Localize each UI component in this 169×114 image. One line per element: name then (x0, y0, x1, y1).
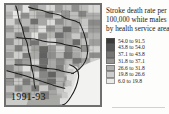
legend-title: Stroke death rate per 100,000 white male… (106, 7, 168, 35)
map-panel[interactable]: 1991-93 (4, 3, 102, 107)
legend-item-label: 31.8 to 37.1 (118, 58, 145, 64)
legend-entry-list: 54.0 to 91.5 43.8 to 54.0 37.1 to 43.8 3… (106, 38, 168, 85)
map-year-label: 1991-93 (11, 91, 46, 102)
legend-item[interactable]: 43.8 to 54.0 (106, 44, 168, 51)
legend-item-label: 26.6 to 31.8 (118, 65, 145, 71)
legend-item[interactable]: 19.8 to 26.6 (106, 71, 168, 78)
legend-item[interactable]: 6.0 to 19.8 (106, 78, 168, 85)
legend-swatch-icon (106, 65, 115, 71)
legend-title-line-3: by health service area (106, 25, 168, 34)
legend-item[interactable]: 54.0 to 91.5 (106, 38, 168, 45)
legend-swatch-icon (106, 51, 115, 57)
bottom-divider (112, 107, 165, 108)
legend-title-line-1: Stroke death rate per (106, 7, 168, 16)
legend-item-label: 54.0 to 91.5 (118, 38, 145, 44)
map-choropleth-cells (6, 5, 100, 105)
legend-swatch-icon (106, 38, 115, 44)
legend-item[interactable]: 31.8 to 37.1 (106, 58, 168, 65)
legend-title-line-2: 100,000 white males (106, 16, 168, 25)
legend-block: Stroke death rate per 100,000 white male… (106, 7, 168, 84)
legend-item-label: 6.0 to 19.8 (118, 78, 142, 84)
legend-item-label: 43.8 to 54.0 (118, 44, 145, 50)
legend-item-label: 19.8 to 26.6 (118, 71, 145, 77)
legend-item[interactable]: 37.1 to 43.8 (106, 51, 168, 58)
legend-item[interactable]: 26.6 to 31.8 (106, 64, 168, 71)
legend-swatch-icon (106, 44, 115, 50)
stroke-death-rate-map-figure: 1991-93 Stroke death rate per 100,000 wh… (0, 0, 169, 114)
legend-item-label: 37.1 to 43.8 (118, 51, 145, 57)
legend-swatch-icon (106, 78, 115, 84)
legend-swatch-icon (106, 71, 115, 77)
legend-swatch-icon (106, 58, 115, 64)
